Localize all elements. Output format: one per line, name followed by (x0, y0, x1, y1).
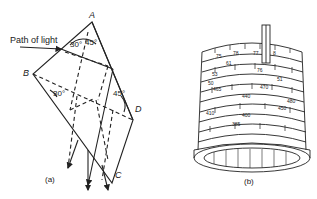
svg-text:480: 480 (287, 98, 296, 104)
angle-label-30-top: 30° (70, 40, 82, 49)
vertex-d-label: D (135, 104, 142, 114)
drum-base-inner (204, 148, 300, 168)
svg-text:61: 61 (226, 60, 232, 66)
caption-a: (a) (45, 175, 55, 184)
svg-text:8: 8 (273, 50, 276, 56)
base-ribs (214, 149, 286, 168)
svg-text:470: 470 (260, 84, 269, 90)
dashed-paths (33, 32, 133, 180)
svg-text:78: 78 (233, 50, 239, 56)
vertex-b-label: B (23, 68, 29, 78)
caption-b: (b) (244, 177, 254, 186)
svg-text:53: 53 (212, 71, 218, 77)
angle-label-45-right: 45° (113, 89, 125, 98)
angle-label-30-left: 30° (53, 89, 65, 98)
drum-right-edge (302, 52, 306, 150)
svg-text:385: 385 (232, 121, 241, 127)
svg-text:465: 465 (213, 86, 222, 92)
scale-numbers: 75 78 77 8 61 76 53 51 50 470 465 440 48… (206, 50, 296, 127)
svg-text:77: 77 (253, 50, 259, 56)
svg-text:410: 410 (206, 110, 215, 116)
svg-text:76: 76 (257, 67, 263, 73)
svg-text:440: 440 (242, 93, 251, 99)
diagram-canvas: Path of light A B C D 30° 45° 30° 45° (a… (0, 0, 317, 199)
path-of-light-label: Path of light (10, 35, 58, 45)
vertex-c-label: C (115, 170, 122, 180)
svg-text:450: 450 (278, 105, 287, 111)
drum-left-edge (198, 52, 202, 150)
vertex-a-label: A (88, 10, 95, 20)
svg-text:51: 51 (277, 76, 283, 82)
drum-top (202, 43, 302, 52)
svg-text:75: 75 (216, 53, 222, 59)
incoming-ray (20, 47, 61, 49)
prism-outline (33, 22, 133, 183)
svg-text:400: 400 (242, 112, 251, 118)
angle-label-45-top: 45° (85, 38, 97, 47)
